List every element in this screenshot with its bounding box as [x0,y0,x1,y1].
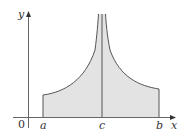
x-axis-label: x [171,119,178,132]
shaded-region [43,14,159,117]
y-axis-label: y [17,8,25,21]
b-label: b [156,119,163,132]
a-label: a [40,119,47,132]
diagram-canvas: y x 0 a c b [0,0,187,140]
origin-label: 0 [18,118,25,131]
c-label: c [99,119,105,132]
y-axis-arrow-icon [26,11,31,17]
